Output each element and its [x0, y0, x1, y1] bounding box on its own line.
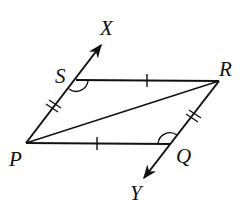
label-s: S [55, 64, 66, 88]
label-p: P [8, 147, 22, 171]
label-x: X [99, 16, 114, 40]
segment-pq [26, 143, 170, 144]
label-y: Y [130, 181, 144, 200]
diagonal-pr [26, 81, 219, 143]
label-r: R [218, 57, 232, 81]
geometry-diagram: X S R P Q Y [0, 0, 247, 200]
ray-px [26, 45, 101, 143]
label-q: Q [176, 144, 191, 168]
